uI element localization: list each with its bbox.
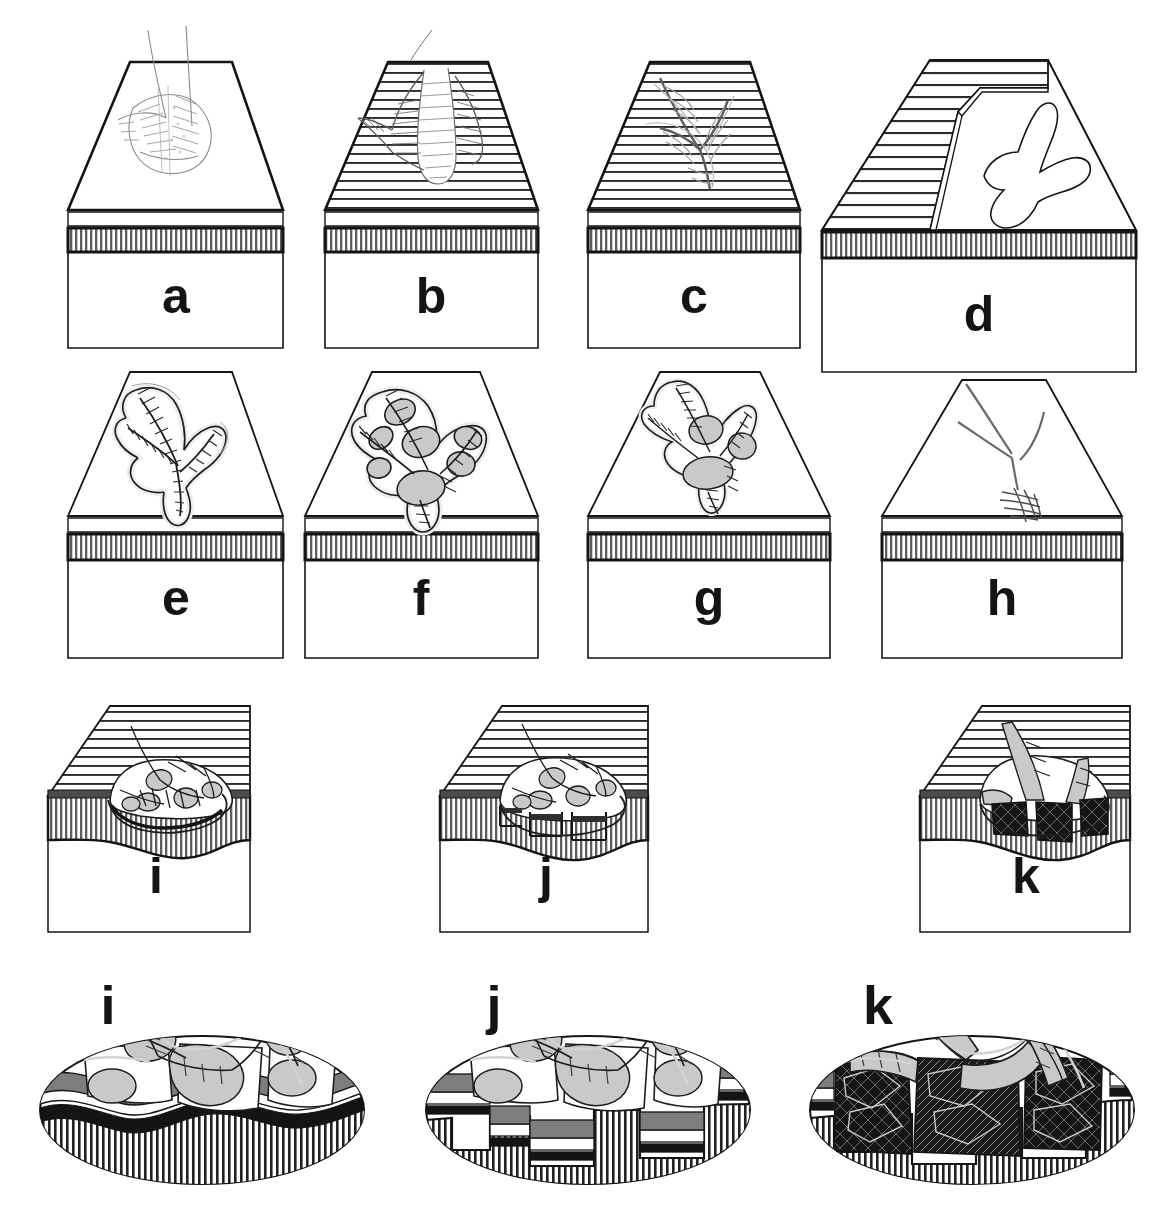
detail-k-label: k bbox=[863, 975, 894, 1035]
panel-b-label: b bbox=[416, 268, 447, 324]
panel-c-thin-band bbox=[588, 212, 800, 226]
detail-i-label: i bbox=[100, 975, 115, 1035]
panel-g-thin-band bbox=[588, 518, 830, 532]
panel-g-marker-bed bbox=[588, 534, 830, 560]
panel-f-marker-bed bbox=[305, 534, 538, 560]
detail-j-label: j bbox=[485, 975, 501, 1035]
panel-a-marker-bed bbox=[68, 228, 283, 252]
panel-f-label: f bbox=[413, 570, 430, 626]
figure-canvas: a b bbox=[0, 0, 1176, 1229]
panel-b-thin-band bbox=[325, 212, 538, 226]
figure-root: a b bbox=[0, 0, 1176, 1229]
panel-a-thin-band bbox=[68, 212, 283, 226]
panel-d-label: d bbox=[964, 286, 995, 342]
panel-e-label: e bbox=[162, 570, 190, 626]
panel-g-label: g bbox=[694, 570, 725, 626]
panel-d-marker-bed bbox=[822, 232, 1136, 258]
panel-c-marker-bed bbox=[588, 228, 800, 252]
panel-a-label: a bbox=[162, 268, 191, 324]
panel-c-label: c bbox=[680, 268, 708, 324]
panel-e-marker-bed bbox=[68, 534, 283, 560]
panel-h-label: h bbox=[987, 570, 1018, 626]
panel-b-marker-bed bbox=[325, 228, 538, 252]
panel-i-block-label: i bbox=[149, 848, 163, 904]
panel-j-block-label: j bbox=[538, 848, 553, 904]
panel-h-marker-bed bbox=[882, 534, 1122, 560]
panel-h-thin-band bbox=[882, 518, 1122, 532]
panel-k-block-label: k bbox=[1012, 848, 1040, 904]
